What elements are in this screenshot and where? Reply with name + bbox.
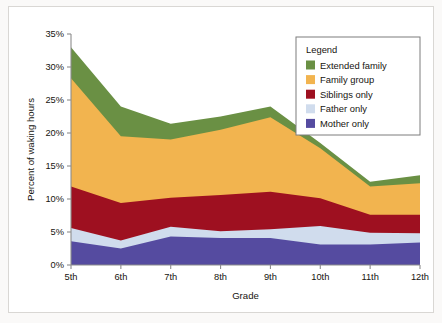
y-tick-label: 20%	[45, 128, 64, 138]
y-tick-label: 15%	[45, 161, 64, 171]
legend-swatch-siblings-only	[306, 90, 315, 99]
legend-label-family-group: Family group	[320, 74, 374, 85]
legend-label-siblings-only: Siblings only	[320, 89, 373, 100]
x-tick-label: 7th	[164, 272, 177, 282]
x-tick-label: 5th	[65, 272, 78, 282]
x-axis-ticks: 5th6th7th8th9th10th11th12th	[65, 265, 430, 282]
chart-card: 0%5%10%15%20%25%30%35% 5th6th7th8th9th10…	[8, 6, 434, 313]
stacked-area-chart[interactable]: 0%5%10%15%20%25%30%35% 5th6th7th8th9th10…	[9, 7, 435, 314]
y-axis-title: Percent of waking hours	[25, 98, 36, 201]
y-tick-label: 10%	[45, 194, 64, 204]
x-tick-label: 8th	[214, 272, 227, 282]
chart-legend[interactable]: Legend Extended familyFamily groupSiblin…	[296, 37, 420, 135]
legend-swatch-mother-only	[306, 119, 315, 128]
legend-title: Legend	[306, 44, 337, 55]
chart-svg[interactable]: 0%5%10%15%20%25%30%35% 5th6th7th8th9th10…	[9, 7, 435, 314]
y-tick-label: 25%	[45, 95, 64, 105]
figure-canvas: 0%5%10%15%20%25%30%35% 5th6th7th8th9th10…	[0, 0, 442, 323]
y-axis-ticks: 0%5%10%15%20%25%30%35%	[45, 29, 71, 270]
legend-swatch-father-only	[306, 104, 315, 113]
legend-label-mother-only: Mother only	[320, 118, 369, 129]
x-tick-label: 9th	[264, 272, 277, 282]
y-tick-label: 30%	[45, 62, 64, 72]
x-tick-label: 12th	[411, 272, 429, 282]
legend-label-father-only: Father only	[320, 103, 367, 114]
x-axis-title: Grade	[232, 290, 259, 301]
legend-swatch-extended-family	[306, 61, 315, 70]
legend-swatch-family-group	[306, 75, 315, 84]
x-tick-label: 11th	[361, 272, 378, 282]
y-tick-label: 5%	[51, 227, 64, 237]
x-tick-label: 6th	[114, 272, 127, 282]
legend-label-extended-family: Extended family	[320, 60, 387, 71]
x-tick-label: 10th	[311, 272, 329, 282]
y-tick-label: 35%	[45, 29, 64, 39]
y-tick-label: 0%	[51, 260, 64, 270]
